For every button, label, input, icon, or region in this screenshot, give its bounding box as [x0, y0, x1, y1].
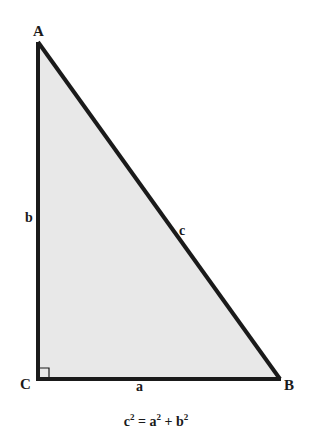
triangle-diagram [0, 0, 312, 447]
side-label-c: c [179, 224, 185, 238]
side-label-a: a [136, 380, 143, 394]
formula-term2-exponent: 2 [184, 412, 189, 422]
formula-equals: = [134, 414, 149, 429]
vertex-label-b: B [284, 378, 294, 393]
formula-term2-base: b [176, 414, 184, 429]
vertex-label-c: C [20, 377, 31, 392]
formula-plus: + [161, 414, 176, 429]
side-label-b: b [25, 211, 33, 225]
vertex-label-a: A [33, 24, 44, 39]
pythagorean-formula: c2 = a2 + b2 [0, 414, 312, 430]
